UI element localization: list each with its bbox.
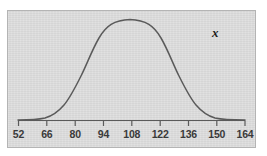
normal-curve-path: [18, 20, 245, 121]
x-tick-label-6: 136: [176, 128, 202, 140]
x-tick-label-0: 52: [6, 128, 32, 140]
x-tick-label-4: 108: [119, 128, 145, 140]
x-axis-ticks: [19, 121, 246, 127]
variable-label-x: x: [212, 25, 219, 41]
x-tick-label-5: 122: [147, 128, 173, 140]
x-tick-label-2: 80: [62, 128, 88, 140]
normal-distribution-figure: 52 66 80 94 108 122 136 150 164 x: [0, 0, 267, 156]
x-tick-label-1: 66: [34, 128, 60, 140]
x-tick-label-7: 150: [204, 128, 230, 140]
x-tick-label-8: 164: [232, 128, 258, 140]
x-tick-label-3: 94: [91, 128, 117, 140]
